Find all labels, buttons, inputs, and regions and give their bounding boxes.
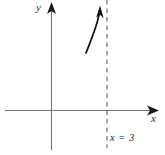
asymptote-label-value: 3 xyxy=(129,132,135,143)
y-axis-label: y xyxy=(36,2,41,13)
asymptote-equation-label: x = 3 xyxy=(110,133,135,144)
x-axis-label: x xyxy=(151,113,156,124)
curve-arrowhead xyxy=(96,6,103,19)
curve-path xyxy=(86,11,100,54)
graph-canvas xyxy=(0,0,165,155)
asymptote-label-equals: = xyxy=(118,132,126,143)
asymptote-label-variable: x xyxy=(110,132,115,143)
graph-figure: y x x = 3 xyxy=(0,0,165,155)
